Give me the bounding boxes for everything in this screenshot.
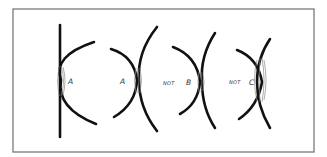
group-4: NOT C <box>229 39 270 128</box>
label-b: B <box>186 78 191 87</box>
group-2: A <box>111 27 157 131</box>
group-1: A <box>58 25 97 137</box>
not-prefix-b: NOT <box>163 80 175 86</box>
diagram-canvas: A A NOT B NOT C <box>0 0 327 157</box>
group-3: NOT B <box>163 33 215 128</box>
label-a-2: A <box>119 77 125 86</box>
not-prefix-c: NOT <box>229 79 241 85</box>
label-c: C <box>249 78 255 87</box>
label-a-1: A <box>67 77 73 86</box>
